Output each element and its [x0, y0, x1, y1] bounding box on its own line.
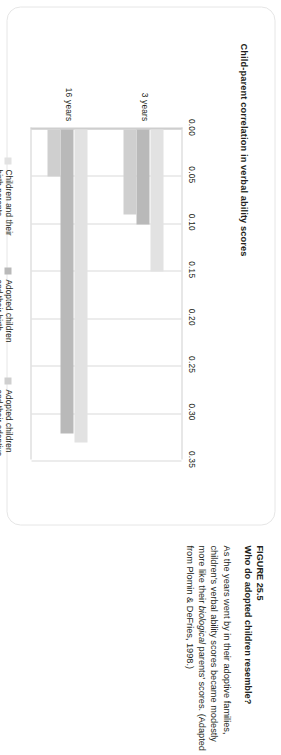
- x-tick-label: 0.05: [186, 166, 196, 183]
- caption-body: As the years went by in their adoptive f…: [183, 545, 232, 755]
- plot-area: [30, 127, 182, 459]
- legend-item: Adopted children and their birth parents: [0, 267, 12, 351]
- legend-item: Adopted children and their adoptive pare…: [0, 377, 12, 461]
- category-label: 3 years: [139, 65, 149, 121]
- gridline: [31, 365, 181, 366]
- bar: [137, 129, 150, 224]
- x-tick-label: 0.10: [186, 213, 196, 230]
- caption-heading: FIGURE 25.5 Who do adopted children rese…: [241, 545, 265, 755]
- x-tick-label: 0.20: [186, 308, 196, 325]
- x-tick-label: 0.25: [186, 356, 196, 373]
- legend-label: Children and their birth parents: [0, 169, 12, 241]
- legend-swatch: [4, 157, 11, 164]
- gridline: [31, 318, 181, 319]
- caption-text-italic: biological: [196, 605, 206, 643]
- legend-item: Children and their birth parents: [0, 157, 12, 241]
- bar: [61, 129, 74, 433]
- bar: [150, 129, 163, 271]
- bar: [123, 129, 136, 214]
- figure-number: FIGURE 25.5: [254, 545, 264, 600]
- legend-label: Adopted children and their birth parents: [0, 279, 12, 351]
- x-tick-label: 0.15: [186, 261, 196, 278]
- gridline: [31, 460, 181, 461]
- figure-card: Child-parent correlation in verbal abili…: [6, 6, 275, 525]
- x-tick-label: 0.30: [186, 403, 196, 420]
- x-tick-label: 0.00: [186, 118, 196, 135]
- legend-swatch: [4, 267, 11, 274]
- x-tick-label: 0.35: [186, 450, 196, 467]
- axis-title: Child-parent correlation in verbal abili…: [237, 43, 248, 263]
- legend-label: Adopted children and their adoptive pare…: [0, 389, 12, 461]
- legend-swatch: [4, 377, 11, 384]
- category-label: 16 years: [63, 65, 73, 121]
- gridline: [31, 413, 181, 414]
- figure-title: Who do adopted children resemble?: [242, 545, 252, 704]
- bar: [74, 129, 87, 442]
- chart-legend: Children and their birth parentsAdopted …: [0, 157, 12, 461]
- bar: [47, 129, 60, 176]
- figure-caption: FIGURE 25.5 Who do adopted children rese…: [183, 545, 265, 755]
